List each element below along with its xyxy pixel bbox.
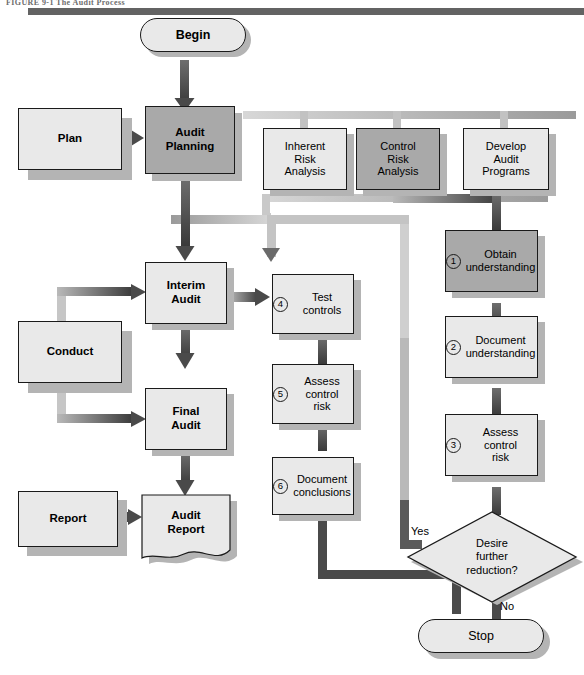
step-interim-audit[interactable]: InterimAudit [145,262,227,324]
task-inherent-risk-analysis-label: InherentRiskAnalysis [282,140,329,179]
input-plan-label: Plan [55,132,85,146]
decision-desire-further-reduction[interactable]: Desirefurtherreduction? [400,508,584,606]
terminator-begin[interactable]: Begin [140,18,246,52]
input-report-label: Report [46,512,89,526]
input-plan[interactable]: Plan [18,108,126,176]
step-3-inner: 3 Assesscontrolrisk [446,426,537,465]
terminator-stop[interactable]: Stop [418,619,544,653]
step-5-number: 5 [273,387,288,402]
wire-begin-to-audit-planning [175,60,195,112]
input-report[interactable]: Report [18,491,126,557]
step-final-audit-label: FinalAudit [168,405,203,432]
decision-shape [400,508,584,606]
terminator-begin-label: Begin [176,28,211,42]
step-6-label: Documentconclusions [291,473,353,499]
step-audit-report-label: AuditReport [141,494,231,552]
wire-step4-to-step5 [318,337,327,364]
task-develop-audit-programs[interactable]: DevelopAuditPrograms [463,128,549,190]
step-audit-planning-label: AuditPlanning [163,126,218,153]
step-audit-report[interactable]: AuditReport [141,494,243,572]
step-4-test-controls[interactable]: 4 Testcontrols [272,274,354,334]
step-2-label: Documentunderstanding [464,334,537,360]
input-conduct[interactable]: Conduct [18,321,128,393]
step-audit-planning[interactable]: AuditPlanning [145,106,235,174]
step-5-label: Assesscontrolrisk [291,375,353,414]
step-5-assess-control-risk[interactable]: 5 Assesscontrolrisk [272,364,354,424]
wire-step2-to-step3 [492,388,501,415]
step-final-audit[interactable]: FinalAudit [145,388,227,450]
step-4-inner: 4 Testcontrols [273,291,353,317]
step-5-inner: 5 Assesscontrolrisk [273,375,353,414]
input-plan-face: Plan [18,108,122,170]
step-6-inner: 6 Documentconclusions [273,473,353,499]
task-control-risk-analysis[interactable]: ControlRiskAnalysis [356,128,440,190]
step-interim-audit-label: InterimAudit [164,279,208,306]
step-1-number: 1 [446,254,461,269]
input-conduct-face: Conduct [18,321,122,383]
step-1-label: Obtainunderstanding [464,248,537,274]
step-1-inner: 1 Obtainunderstanding [446,248,537,274]
edge-label-yes: Yes [411,525,429,537]
task-control-risk-analysis-label: ControlRiskAnalysis [375,140,422,179]
wire-interim-to-step4 [229,288,270,306]
terminator-stop-label: Stop [468,629,494,643]
step-6-number: 6 [273,479,288,494]
wire-planning-task-bus [243,111,576,129]
step-3-number: 3 [446,438,461,453]
step-1-obtain-understanding[interactable]: 1 Obtainunderstanding [445,230,538,292]
step-2-document-understanding[interactable]: 2 Documentunderstanding [445,316,538,378]
step-3-assess-control-risk[interactable]: 3 Assesscontrolrisk [445,414,538,476]
task-inherent-risk-analysis[interactable]: InherentRiskAnalysis [263,128,347,190]
step-2-inner: 2 Documentunderstanding [446,334,537,360]
step-4-label: Testcontrols [291,291,353,317]
step-2-number: 2 [446,340,461,355]
input-conduct-label: Conduct [44,345,97,359]
edge-label-no: No [500,600,514,612]
figure-root: FIGURE 9-1 The Audit Process [0,0,584,675]
task-develop-audit-programs-label: DevelopAuditPrograms [479,140,533,179]
input-report-face: Report [18,491,118,547]
step-3-label: Assesscontrolrisk [464,426,537,465]
wire-final-audit-to-audit-report [176,453,195,496]
wire-interim-to-final-audit [176,327,195,369]
step-6-document-conclusions[interactable]: 6 Documentconclusions [272,457,354,515]
step-4-number: 4 [273,297,288,312]
